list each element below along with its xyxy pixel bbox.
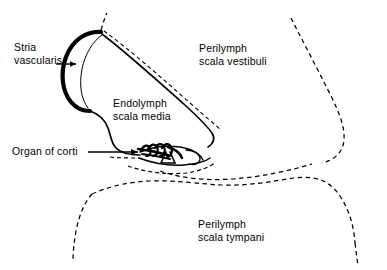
label-organ-of-corti: Organ of corti (12, 145, 78, 158)
organ-of-corti-under-dashed (128, 162, 216, 174)
reissners-membrane (102, 34, 214, 147)
bony-wall-right-tail (355, 243, 358, 266)
spiral-vessel-loop (186, 150, 200, 165)
label-endolymph-scala-media: Endolymph scala media (113, 97, 171, 122)
bony-wall-scala-tympani-left (73, 194, 92, 261)
label-perilymph-scala-tympani: Perilymph scala tympani (198, 218, 264, 243)
label-stria-vascularis: Stria vascularis (14, 41, 62, 66)
lateral-wall-inner-line (81, 35, 102, 108)
basilar-membrane-dashed (110, 157, 139, 158)
bony-wall-lower-vestibuli (160, 164, 312, 180)
apex-dashed-stub (101, 13, 107, 30)
bony-wall-scala-vestibuli (291, 18, 344, 163)
label-perilymph-scala-vestibuli: Perilymph scala vestibuli (199, 42, 267, 67)
cochlea-cross-section-figure: Stria vascularis Endolymph scala media P… (0, 0, 387, 270)
